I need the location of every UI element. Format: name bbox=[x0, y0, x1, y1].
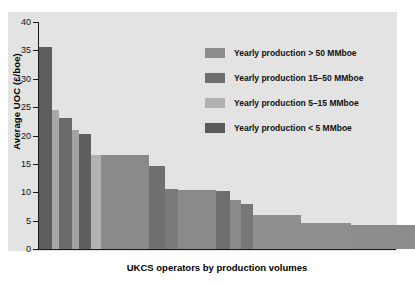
bar bbox=[52, 110, 59, 249]
legend-item: Yearly production > 50 MMboe bbox=[205, 46, 390, 59]
y-tick-label: 0 bbox=[7, 245, 31, 254]
legend-label: Yearly production 5–15 MMboe bbox=[234, 98, 359, 108]
y-tick-label: 10 bbox=[7, 188, 31, 197]
bar bbox=[101, 155, 149, 249]
y-tick-label: 40 bbox=[7, 18, 31, 27]
bar bbox=[178, 190, 216, 249]
y-tick-mark bbox=[33, 192, 38, 193]
legend-swatch bbox=[205, 48, 225, 58]
legend-label: Yearly production > 50 MMboe bbox=[234, 48, 357, 58]
legend-label: Yearly production 15–50 MMboe bbox=[234, 73, 363, 83]
legend-item: Yearly production < 5 MMboe bbox=[205, 121, 390, 134]
y-tick-mark bbox=[33, 79, 38, 80]
legend-item: Yearly production 15–50 MMboe bbox=[205, 71, 390, 84]
bar bbox=[91, 155, 101, 249]
legend-swatch bbox=[205, 73, 225, 83]
bar bbox=[149, 166, 165, 249]
bar bbox=[72, 130, 79, 249]
y-tick-label: 5 bbox=[7, 217, 31, 226]
bar bbox=[301, 223, 351, 249]
bar bbox=[253, 215, 301, 249]
chart-legend: Yearly production > 50 MMboeYearly produ… bbox=[205, 46, 390, 146]
legend-item: Yearly production 5–15 MMboe bbox=[205, 96, 390, 109]
bar bbox=[216, 191, 230, 249]
x-axis-line bbox=[38, 249, 396, 250]
y-tick-mark bbox=[33, 221, 38, 222]
x-axis-label: UKCS operators by production volumes bbox=[38, 262, 396, 273]
y-tick-mark bbox=[33, 22, 38, 23]
bar bbox=[38, 47, 52, 249]
legend-swatch bbox=[205, 123, 225, 133]
y-axis-label: Average UOC (£/boe) bbox=[11, 32, 22, 172]
bar bbox=[241, 204, 253, 249]
bar bbox=[59, 118, 72, 249]
legend-swatch bbox=[205, 98, 225, 108]
y-axis-line bbox=[38, 22, 39, 250]
bar bbox=[165, 189, 178, 249]
legend-label: Yearly production < 5 MMboe bbox=[234, 123, 352, 133]
y-tick-mark bbox=[33, 164, 38, 165]
y-tick-mark bbox=[33, 107, 38, 108]
y-tick-mark bbox=[33, 249, 38, 250]
y-tick-mark bbox=[33, 136, 38, 137]
bar bbox=[230, 200, 241, 249]
y-tick-mark bbox=[33, 50, 38, 51]
bar bbox=[351, 225, 415, 249]
bar bbox=[79, 134, 91, 249]
